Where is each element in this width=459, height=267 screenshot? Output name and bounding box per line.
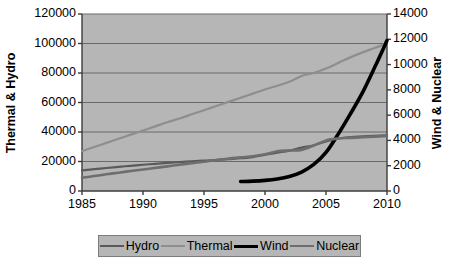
legend-entry-nuclear[interactable]: Nuclear: [290, 239, 359, 253]
legend-swatch-nuclear-icon: [290, 245, 314, 247]
legend-entry-wind[interactable]: Wind: [234, 239, 288, 253]
legend-swatch-wind-icon: [234, 245, 258, 248]
plot-area: [0, 0, 459, 267]
legend-swatch-hydro-icon: [100, 245, 124, 247]
legend-entry-thermal[interactable]: Thermal: [161, 239, 233, 253]
legend-label: Hydro: [126, 239, 159, 253]
legend-label: Thermal: [187, 239, 233, 253]
legend-swatch-thermal-icon: [161, 245, 185, 247]
legend-label: Nuclear: [316, 239, 359, 253]
legend-label: Wind: [260, 239, 288, 253]
legend-entry-hydro[interactable]: Hydro: [100, 239, 159, 253]
chart-container: Thermal & Hydro Wind & Nuclear 020000400…: [0, 0, 459, 267]
chart-legend: HydroThermalWindNuclear: [98, 235, 361, 257]
